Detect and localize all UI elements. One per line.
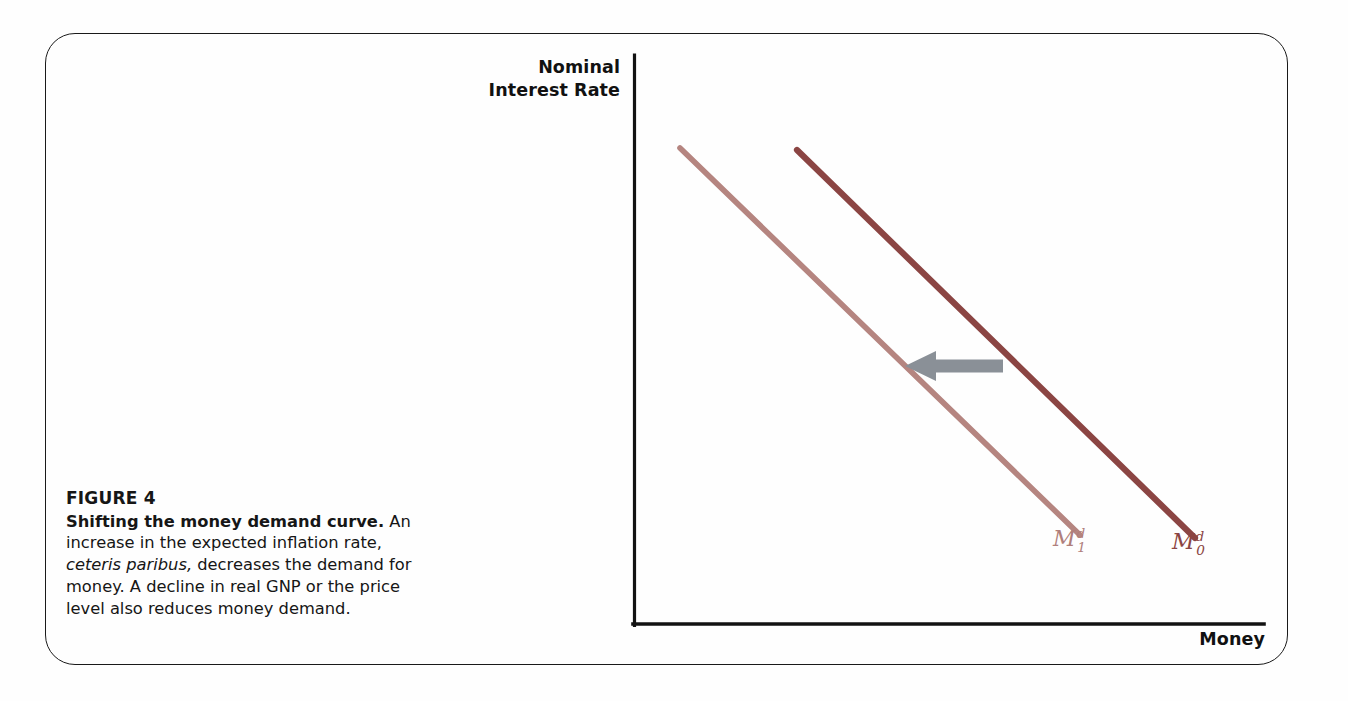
figure-number-label: FIGURE 4 bbox=[66, 487, 418, 510]
figure-caption-lead: Shifting the money demand curve. bbox=[66, 512, 384, 531]
curve-label-m1-subscript: 1 bbox=[1077, 539, 1086, 555]
curve-label-m1-base: M bbox=[1053, 526, 1076, 551]
figure-caption-body: Shifting the money demand curve. An incr… bbox=[66, 511, 418, 620]
x-axis-title: Money bbox=[1100, 629, 1265, 649]
curve-label-m1: Md1 bbox=[1053, 527, 1086, 554]
figure-caption-italic-term: ceteris paribus, bbox=[66, 555, 192, 574]
curve-label-m0-base: M bbox=[1172, 529, 1195, 554]
figure-caption: FIGURE 4 Shifting the money demand curve… bbox=[66, 487, 418, 619]
curve-label-m0-subscript: 0 bbox=[1196, 542, 1205, 558]
y-axis-title: Nominal Interest Rate bbox=[470, 56, 620, 102]
curve-label-m0: Md0 bbox=[1172, 530, 1205, 557]
